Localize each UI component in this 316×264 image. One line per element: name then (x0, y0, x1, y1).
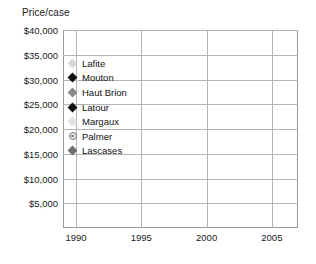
legend-item-label: Latour (82, 102, 109, 113)
legend-item-label: Haut Brion (82, 87, 127, 98)
gridline-vertical (207, 30, 208, 228)
legend: LafiteMoutonHaut BrionLatourMargauxPalme… (67, 56, 127, 158)
y-axis-tick-label: $25,000 (0, 99, 58, 110)
y-axis-title: Price/case (22, 7, 70, 18)
x-axis-tick-label: 1995 (131, 232, 152, 243)
y-axis-tick-label: $15,000 (0, 148, 58, 159)
diamond-marker-icon (67, 102, 78, 113)
gridline-vertical (272, 30, 273, 228)
diamond-marker-icon (67, 58, 78, 69)
y-axis-tick-label: $35,000 (0, 49, 58, 60)
legend-item-lascases[interactable]: Lascases (67, 144, 127, 159)
legend-item-label: Margaux (82, 116, 119, 127)
x-axis-tick-label: 1990 (65, 232, 86, 243)
y-axis-tick-label: $40,000 (0, 25, 58, 36)
diamond-marker-icon (67, 145, 78, 156)
legend-item-mouton[interactable]: Mouton (67, 71, 127, 86)
legend-item-latour[interactable]: Latour (67, 100, 127, 115)
legend-item-label: Mouton (82, 72, 114, 83)
gridline-horizontal (63, 179, 298, 180)
diamond-marker-icon (67, 87, 78, 98)
circle-marker-icon (67, 131, 78, 142)
price-per-case-line-chart: Price/case $40,000$35,000$30,000$25,000$… (0, 0, 316, 264)
diamond-marker-icon (67, 72, 78, 83)
legend-item-label: Palmer (82, 131, 112, 142)
legend-item-haut-brion[interactable]: Haut Brion (67, 85, 127, 100)
x-axis-tick-label: 2005 (261, 232, 282, 243)
x-axis-tick-label: 2000 (196, 232, 217, 243)
legend-item-palmer[interactable]: Palmer (67, 129, 127, 144)
legend-item-label: Lascases (82, 145, 122, 156)
legend-item-label: Lafite (82, 58, 105, 69)
gridline-horizontal (63, 30, 298, 31)
y-axis-tick-label: $30,000 (0, 74, 58, 85)
y-axis-tick-label: $20,000 (0, 124, 58, 135)
diamond-marker-icon (67, 116, 78, 127)
gridline-vertical (141, 30, 142, 228)
legend-item-lafite[interactable]: Lafite (67, 56, 127, 71)
y-axis-tick-label: $10,000 (0, 173, 58, 184)
legend-item-margaux[interactable]: Margaux (67, 114, 127, 129)
gridline-horizontal (63, 203, 298, 204)
y-axis-tick-label: $5,000 (0, 198, 58, 209)
